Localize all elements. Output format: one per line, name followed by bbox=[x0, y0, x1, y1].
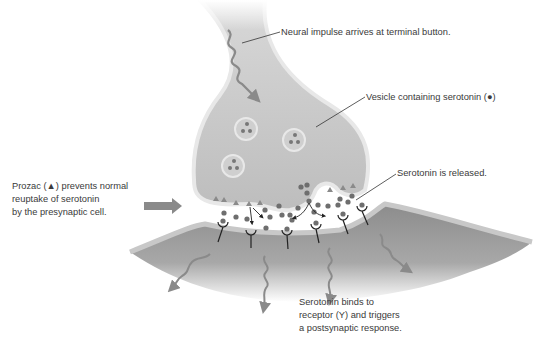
label-prozac: Prozac (▲) prevents normal reuptake of s… bbox=[12, 180, 128, 219]
postsynaptic-cell bbox=[130, 204, 532, 302]
synapse-diagram: Neural impulse arrives at terminal butto… bbox=[0, 0, 542, 346]
vesicle bbox=[283, 129, 305, 151]
label-vesicle: Vesicle containing serotonin (●) bbox=[366, 91, 496, 104]
vesicle bbox=[222, 155, 244, 177]
label-serotonin-binds: Serotonin binds to receptor (Υ) and trig… bbox=[299, 296, 402, 335]
vesicle bbox=[235, 118, 257, 140]
prozac-pointer-arrow bbox=[144, 198, 182, 214]
label-serotonin-released: Serotonin is released. bbox=[397, 167, 487, 180]
label-neural-impulse: Neural impulse arrives at terminal butto… bbox=[281, 26, 450, 39]
